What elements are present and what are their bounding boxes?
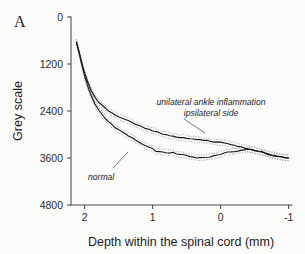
leader-line-normal	[113, 152, 128, 168]
y-tick-label: 4800	[40, 199, 64, 211]
x-axis-ticks: 210-1	[82, 205, 294, 223]
x-tick-label: 0	[218, 211, 224, 223]
y-tick-label: 0	[57, 11, 63, 23]
y-tick-label: 3600	[40, 152, 64, 164]
annotation-inflammation-line1: unilateral ankle inflammation	[157, 97, 266, 107]
y-axis-title: Grey scale	[11, 81, 25, 141]
annotation-normal: normal	[88, 172, 115, 182]
panel-label-a: A	[14, 13, 26, 30]
figure-panel-a: A 01200240036004800 210-1 unilateral ank…	[0, 0, 305, 254]
chart-svg: A 01200240036004800 210-1 unilateral ank…	[0, 0, 305, 254]
x-tick-label: -1	[284, 211, 293, 223]
y-tick-label: 2400	[40, 105, 64, 117]
x-axis-title: Depth within the spinal cord (mm)	[88, 235, 274, 249]
y-axis-ticks: 01200240036004800	[40, 11, 71, 211]
leader-line-inflammation	[184, 119, 205, 133]
y-tick-label: 1200	[40, 58, 64, 70]
annotation-inflammation-line2: ipsilateral side	[184, 108, 239, 118]
x-tick-label: 1	[150, 211, 156, 223]
x-tick-label: 2	[82, 211, 88, 223]
